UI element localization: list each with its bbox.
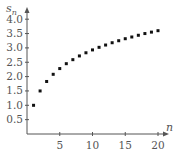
x-axis-label: n: [166, 121, 173, 134]
data-point: [104, 44, 107, 47]
data-point: [117, 39, 120, 42]
data-point: [58, 67, 61, 70]
data-point: [45, 80, 48, 83]
data-point: [157, 29, 160, 32]
data-point: [143, 32, 146, 35]
x-tick-label: 5: [56, 139, 63, 151]
data-point: [130, 35, 133, 38]
data-points: [32, 29, 159, 107]
data-point: [78, 54, 81, 57]
axes: 0.51.01.52.02.53.03.54.05101520snn: [6, 2, 173, 151]
y-tick-label: 1.5: [6, 84, 23, 96]
data-point: [91, 48, 94, 51]
data-point: [111, 41, 114, 44]
y-axis-label: sn: [6, 2, 17, 17]
data-point: [98, 46, 101, 49]
data-point: [124, 37, 127, 40]
data-point: [32, 104, 35, 107]
scatter-chart: 0.51.01.52.02.53.03.54.05101520snn: [0, 0, 177, 156]
data-point: [65, 62, 68, 65]
data-point: [52, 73, 55, 76]
y-tick-label: 3.5: [6, 27, 23, 39]
data-point: [137, 34, 140, 37]
data-point: [150, 31, 153, 34]
y-tick-label: 1.0: [6, 99, 23, 111]
y-axis-arrow-icon: [25, 7, 30, 13]
y-tick-label: 3.0: [6, 41, 23, 53]
data-point: [71, 58, 74, 61]
x-tick-label: 10: [86, 139, 99, 151]
y-tick-label: 2.0: [6, 70, 23, 82]
data-point: [84, 51, 87, 54]
x-tick-label: 20: [151, 139, 164, 151]
y-tick-label: 0.5: [6, 113, 23, 125]
x-tick-label: 15: [119, 139, 132, 151]
data-point: [39, 89, 42, 92]
y-tick-label: 2.5: [6, 56, 23, 68]
